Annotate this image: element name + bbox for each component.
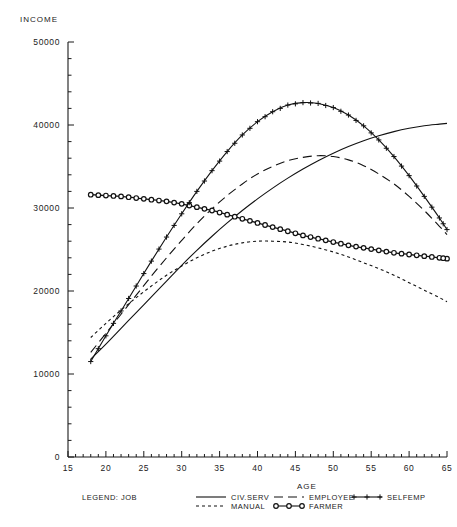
circle-marker <box>331 240 336 245</box>
circle-marker <box>369 247 374 252</box>
plus-marker <box>300 100 305 105</box>
circle-marker <box>392 251 397 256</box>
y-tick-label: 50000 <box>33 37 60 47</box>
plus-marker <box>331 105 336 110</box>
x-tick-label: 30 <box>176 463 187 473</box>
circle-marker <box>149 197 154 202</box>
y-axis-ticks <box>68 42 74 457</box>
circle-marker <box>111 194 116 199</box>
circle-marker <box>346 243 351 248</box>
series-line <box>91 102 447 361</box>
plus-marker <box>141 271 146 276</box>
legend-title: LEGEND: JOB <box>82 493 137 502</box>
circle-marker <box>278 227 283 232</box>
x-tick-label: 45 <box>290 463 301 473</box>
plus-marker <box>103 333 108 338</box>
plus-marker <box>316 101 321 106</box>
circle-marker <box>142 197 147 202</box>
circle-marker <box>339 241 344 246</box>
circle-marker <box>361 246 366 251</box>
y-axis-title: INCOME <box>20 15 58 24</box>
circle-marker <box>248 219 253 224</box>
x-axis-title: AGE <box>297 482 317 491</box>
circle-marker <box>441 256 446 261</box>
circle-marker <box>255 221 260 226</box>
data-series-layer <box>88 100 449 364</box>
circle-marker <box>126 195 131 200</box>
legend-item-civ-serv[interactable]: CIV.SERV <box>196 493 269 502</box>
y-tick-label: 0 <box>55 452 60 462</box>
circle-marker <box>232 214 237 219</box>
series-line <box>91 195 447 259</box>
legend: CIV.SERVMANUALEMPLOYEEFARMERSELFEMP <box>196 493 426 511</box>
legend-item-label: FARMER <box>309 502 343 511</box>
x-tick-label: 40 <box>252 463 263 473</box>
income-by-age-line-chart: INCOME AGE 01000020000300004000050000 15… <box>0 0 457 527</box>
legend-item-manual[interactable]: MANUAL <box>196 502 265 511</box>
legend-item-label: SELFEMP <box>387 493 426 502</box>
circle-marker <box>286 229 291 234</box>
plus-marker <box>156 246 161 251</box>
plus-marker <box>377 494 382 499</box>
legend-item-label: CIV.SERV <box>231 493 269 502</box>
circle-marker <box>164 199 169 204</box>
plus-marker <box>88 359 93 364</box>
plus-marker <box>346 112 351 117</box>
plus-marker <box>111 321 116 326</box>
legend-item-farmer[interactable]: FARMER <box>274 502 344 511</box>
circle-marker <box>172 200 177 205</box>
circle-marker <box>323 238 328 243</box>
circle-marker <box>287 504 292 509</box>
circle-marker <box>270 225 275 230</box>
series-farmer <box>88 192 449 261</box>
circle-marker <box>301 233 306 238</box>
y-tick-label: 40000 <box>33 120 60 130</box>
circle-marker <box>376 248 381 253</box>
circle-marker <box>414 253 419 258</box>
x-axis-tick-labels: 1520253035404550556065 <box>63 463 453 473</box>
circle-marker <box>240 216 245 221</box>
x-tick-label: 55 <box>366 463 377 473</box>
circle-marker <box>399 251 404 256</box>
circle-marker <box>104 193 109 198</box>
circle-marker <box>422 254 427 259</box>
circle-marker <box>308 235 313 240</box>
circle-marker <box>384 249 389 254</box>
circle-marker <box>407 252 412 257</box>
legend-item-selfemp[interactable]: SELFEMP <box>351 493 425 502</box>
plus-marker <box>126 296 131 301</box>
plus-marker <box>285 102 290 107</box>
plus-marker <box>134 283 139 288</box>
x-tick-label: 60 <box>404 463 415 473</box>
circle-marker <box>119 194 124 199</box>
y-tick-label: 30000 <box>33 203 60 213</box>
circle-marker <box>210 208 215 213</box>
x-tick-label: 65 <box>442 463 453 473</box>
plus-marker <box>293 101 298 106</box>
circle-marker <box>202 207 207 212</box>
circle-marker <box>293 231 298 236</box>
circle-marker <box>134 196 139 201</box>
y-tick-label: 10000 <box>33 369 60 379</box>
y-axis-tick-labels: 01000020000300004000050000 <box>33 37 60 462</box>
circle-marker <box>217 210 222 215</box>
x-tick-label: 50 <box>328 463 339 473</box>
legend-item-label: MANUAL <box>231 502 265 511</box>
x-tick-label: 25 <box>138 463 149 473</box>
circle-marker <box>225 212 230 217</box>
circle-marker <box>430 255 435 260</box>
plus-marker <box>149 259 154 264</box>
x-tick-label: 35 <box>214 463 225 473</box>
circle-marker <box>157 198 162 203</box>
legend-item-label: EMPLOYEE <box>309 493 354 502</box>
legend-item-employee[interactable]: EMPLOYEE <box>274 493 354 502</box>
series-selfemp <box>88 100 449 364</box>
plus-marker <box>364 494 369 499</box>
x-tick-label: 20 <box>101 463 112 473</box>
circle-marker <box>179 202 184 207</box>
circle-marker <box>316 236 321 241</box>
circle-marker <box>354 244 359 249</box>
x-tick-label: 15 <box>63 463 74 473</box>
plus-marker <box>308 100 313 105</box>
y-tick-label: 20000 <box>33 286 60 296</box>
